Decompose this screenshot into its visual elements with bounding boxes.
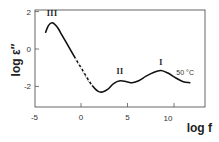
plot-frame [35,10,205,107]
temperature-label: 50 °C [176,69,194,76]
peak-annotations: IIIIII50 °C [47,9,194,76]
data-curve [46,23,190,92]
y-axis-title-text: log ε″ [9,43,23,76]
peak-label: II [116,67,123,76]
peak-label: III [47,9,58,18]
x-tick-label: -5 [31,113,39,122]
y-axis-ticks: -202 [24,8,39,92]
x-tick-label: 0 [79,113,84,122]
x-axis-title: log f [187,121,213,135]
peak-label: I [159,58,163,67]
y-tick-label: -2 [24,82,32,91]
y-tick-label: 2 [27,8,32,17]
y-axis-title: log ε″ [9,43,23,76]
y-tick-label: 0 [27,45,32,54]
x-tick-label: 5 [125,113,130,122]
x-axis-ticks: -50510 [31,103,174,123]
x-tick-label: 10 [164,114,173,123]
dielectric-loss-chart: -50510 -202 IIIIII50 °C log ε″ log f [0,0,219,142]
